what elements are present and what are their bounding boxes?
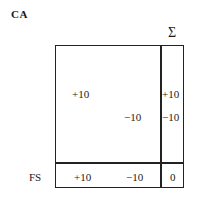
footer-total: 0	[170, 171, 176, 183]
footer-value-c2: −10	[126, 171, 143, 183]
sum-header: Σ	[168, 25, 176, 41]
footer-label: FS	[29, 171, 41, 183]
matrix-cell-r1-c1: +10	[72, 88, 89, 100]
matrix-title: CA	[11, 8, 28, 20]
footer-value-c1: +10	[74, 171, 91, 183]
matrix-sum-r2: −10	[162, 111, 179, 123]
matrix-sum-r1: +10	[162, 88, 179, 100]
matrix-cell-r2-c2: −10	[124, 111, 141, 123]
footer-row-divider	[55, 162, 184, 164]
